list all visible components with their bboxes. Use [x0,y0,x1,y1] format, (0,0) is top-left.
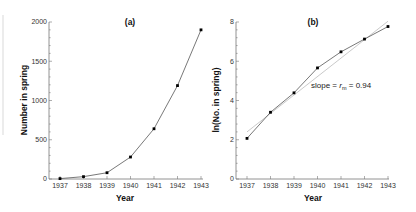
panel-a-y-axis-title: Number in spring [19,65,29,135]
x-tick-label: 1939 [286,182,302,189]
y-tick-label: 1000 [31,97,47,104]
y-tick-label: 1500 [31,58,47,65]
x-tick-label: 1939 [99,182,115,189]
x-tick-label: 1938 [76,182,92,189]
panel-b-axes: 024681937193819391940194119421943 [230,18,396,189]
data-point-marker [129,156,132,159]
x-tick-label: 1943 [193,182,209,189]
x-tick-label: 1941 [146,182,162,189]
x-tick-label: 1937 [52,182,68,189]
panel-a-x-axis-title: Year [116,193,135,203]
data-point-marker [106,171,109,174]
data-point-marker [200,28,203,31]
data-point-marker [269,111,272,114]
y-tick-label: 2000 [31,18,47,25]
panel-a-axes: 0500100015002000193719381939194019411942… [31,18,208,189]
slope-annotation: slope = rm = 0.94 [311,81,372,91]
data-point-marker [293,91,296,94]
x-tick-label: 1940 [310,182,326,189]
y-tick-label: 0 [230,175,234,182]
x-tick-label: 1942 [170,182,186,189]
y-tick-label: 2 [230,136,234,143]
data-point-marker [363,38,366,41]
panel-a-data-series [59,28,203,180]
x-tick-label: 1937 [239,182,255,189]
data-point-marker [153,127,156,130]
y-tick-label: 6 [230,58,234,65]
x-tick-label: 1943 [380,182,396,189]
x-tick-label: 1942 [357,182,373,189]
x-tick-label: 1938 [263,182,279,189]
data-point-marker [316,67,319,70]
panel-a-chart: 0500100015002000193719381939194019411942… [19,17,209,203]
data-point-marker [246,137,249,140]
data-point-marker [59,177,62,180]
x-tick-label: 1941 [333,182,349,189]
data-point-marker [340,50,343,53]
data-point-marker [82,175,85,178]
panel-b-label: (b) [308,17,319,27]
data-point-marker [176,84,179,87]
data-point-marker [387,25,390,28]
y-tick-label: 500 [35,136,47,143]
figure: 0500100015002000193719381939194019411942… [0,0,416,212]
y-tick-label: 0 [43,175,47,182]
y-tick-label: 8 [230,18,234,25]
x-tick-label: 1940 [123,182,139,189]
panel-a-label: (a) [125,17,136,27]
panel-b-chart: 024681937193819391940194119421943 (b) Ye… [211,17,396,203]
panel-b-x-axis-title: Year [304,193,323,203]
y-tick-label: 4 [230,97,234,104]
panel-b-y-axis-title: ln(No. in spring) [211,67,221,132]
